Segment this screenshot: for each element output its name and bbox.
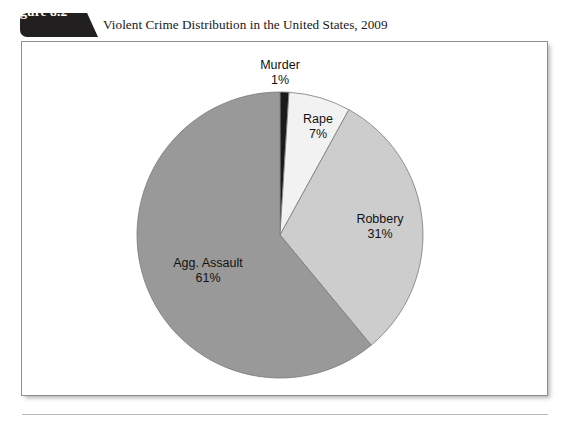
figure-root: Figure 8.2 Violent Crime Distribution in…: [0, 0, 571, 421]
pie-label-rape: Rape 7%: [281, 112, 355, 142]
chart-panel: [21, 41, 548, 396]
figure-title: Violent Crime Distribution in the United…: [103, 16, 388, 34]
pie-label-agg-assault-value: 61%: [145, 271, 271, 286]
pie-label-rape-name: Rape: [281, 112, 355, 127]
figure-header: Figure 8.2 Violent Crime Distribution in…: [0, 0, 571, 41]
plot-area: [22, 42, 547, 395]
pie-label-robbery-value: 31%: [330, 227, 430, 242]
pie-label-agg-assault-name: Agg. Assault: [145, 256, 271, 271]
figure-number-label: Figure 8.2: [8, 3, 74, 21]
pie-label-murder-value: 1%: [222, 73, 338, 88]
pie-label-robbery-name: Robbery: [330, 212, 430, 227]
pie-label-agg-assault: Agg. Assault 61%: [145, 256, 271, 286]
pie-label-murder: Murder 1%: [222, 58, 338, 88]
pie-label-murder-name: Murder: [222, 58, 338, 73]
pie-label-robbery: Robbery 31%: [330, 212, 430, 242]
pie-label-rape-value: 7%: [281, 127, 355, 142]
footer-rule: [22, 414, 548, 415]
